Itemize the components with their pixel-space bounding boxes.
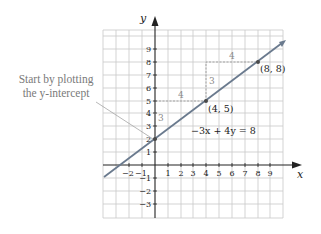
svg-text:1: 1	[146, 148, 151, 157]
svg-text:−1: −1	[139, 174, 151, 183]
svg-text:7: 7	[146, 71, 151, 80]
y-axis-arrow-icon	[152, 16, 159, 26]
callout-line-2: the y-intercept	[2, 86, 110, 100]
svg-text:8: 8	[255, 169, 260, 178]
svg-text:9: 9	[267, 169, 272, 178]
x-axis-label: x	[297, 168, 304, 181]
svg-text:5: 5	[146, 97, 151, 106]
callout-leader	[96, 102, 153, 139]
axes	[103, 22, 298, 218]
svg-text:(4, 5): (4, 5)	[208, 103, 234, 114]
svg-text:4: 4	[203, 169, 208, 178]
svg-text:3: 3	[209, 76, 215, 86]
svg-text:4: 4	[229, 51, 235, 61]
svg-text:−2: −2	[139, 187, 151, 196]
point-labels: (4, 5) (8, 8)	[208, 63, 286, 114]
svg-text:−3: −3	[139, 200, 151, 209]
svg-text:3: 3	[190, 169, 195, 178]
svg-text:3: 3	[158, 113, 164, 123]
coordinate-plane: −2 −1 1 2 3 4 5 6 7 8 9 9 8 7 6 5 4 3 2 …	[0, 0, 321, 234]
svg-text:7: 7	[242, 169, 247, 178]
svg-text:5: 5	[216, 169, 221, 178]
callout-line-1: Start by plotting	[2, 72, 110, 86]
svg-text:2: 2	[178, 169, 183, 178]
svg-text:9: 9	[146, 45, 151, 54]
svg-text:4: 4	[146, 109, 151, 118]
y-axis-label: y	[139, 12, 147, 25]
point-y-intercept	[153, 137, 157, 141]
svg-text:1: 1	[165, 169, 170, 178]
y-tick-labels: 9 8 7 6 5 4 3 2 1 −1 −2 −3	[139, 45, 151, 209]
svg-text:6: 6	[146, 84, 151, 93]
svg-text:(8, 8): (8, 8)	[260, 63, 286, 74]
callout-text: Start by plotting the y-intercept	[2, 72, 110, 100]
svg-text:6: 6	[229, 169, 234, 178]
svg-text:8: 8	[146, 58, 151, 67]
equation-label: −3x + 4y = 8	[191, 125, 256, 136]
svg-text:4: 4	[178, 90, 184, 100]
line-arrow-icon	[279, 40, 286, 47]
svg-text:3: 3	[146, 122, 151, 131]
svg-text:−2: −2	[122, 169, 134, 178]
